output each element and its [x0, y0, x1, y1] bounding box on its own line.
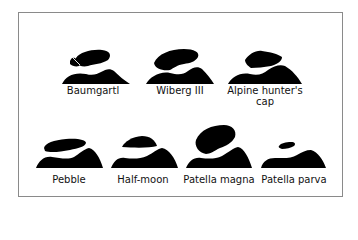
half-moon-shape	[111, 136, 178, 168]
patella-magna-shape	[186, 125, 252, 168]
wiberg-iii-shape	[146, 49, 214, 84]
label-baumgartl: Baumgartl	[67, 85, 119, 96]
baumgartl-shape	[62, 50, 130, 84]
label-alpine-hunters-cap: Alpine hunter's	[227, 85, 303, 96]
label-alpine-hunters-cap-line2: cap	[256, 96, 274, 107]
label-patella-magna: Patella magna	[183, 174, 254, 185]
label-wiberg-iii: Wiberg III	[156, 85, 203, 96]
label-patella-parva: Patella parva	[261, 174, 326, 185]
label-half-moon: Half-moon	[117, 174, 168, 185]
alpine-hunters-cap-shape	[228, 51, 302, 84]
patella-parva-shape	[261, 142, 326, 168]
pebble-shape	[36, 139, 103, 168]
label-pebble: Pebble	[52, 174, 85, 185]
